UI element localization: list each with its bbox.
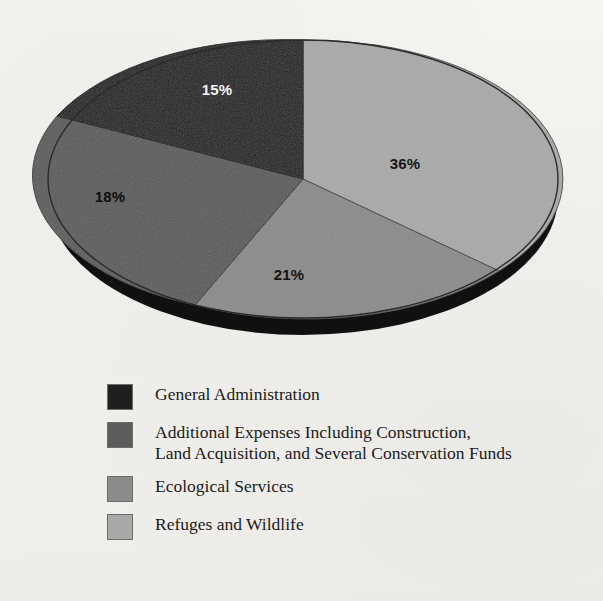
legend-swatch-refuges-and-wildlife	[107, 514, 133, 540]
legend-item-refuges-and-wildlife[interactable]: Refuges and Wildlife	[107, 513, 577, 540]
legend-item-ecological-services[interactable]: Ecological Services	[107, 475, 577, 502]
legend-swatch-additional-expenses	[107, 422, 133, 448]
legend-label-ecological-services: Ecological Services	[155, 475, 294, 497]
legend: General Administration Additional Expens…	[107, 383, 577, 551]
legend-label-refuges-and-wildlife: Refuges and Wildlife	[155, 513, 304, 535]
legend-item-general-administration[interactable]: General Administration	[107, 383, 577, 410]
legend-swatch-general-administration	[107, 384, 133, 410]
legend-label-general-administration: General Administration	[155, 383, 320, 405]
pie-chart-svg	[0, 0, 603, 360]
pie-chart: 36% 21% 18% 15%	[0, 0, 603, 360]
legend-item-additional-expenses[interactable]: Additional Expenses Including Constructi…	[107, 421, 577, 464]
legend-swatch-ecological-services	[107, 476, 133, 502]
legend-label-additional-expenses: Additional Expenses Including Constructi…	[155, 421, 512, 464]
